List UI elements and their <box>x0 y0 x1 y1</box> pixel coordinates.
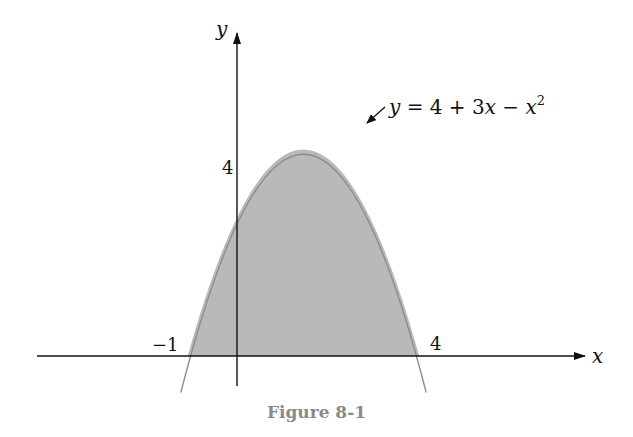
tick-label-y4: 4 <box>222 157 233 178</box>
shaded-area <box>188 150 420 357</box>
equation-label: y = 4 + 3x − x2 <box>388 93 545 119</box>
figure-caption: Figure 8-1 <box>0 402 633 422</box>
annotation-arrow <box>367 107 385 123</box>
y-axis-label: y <box>215 17 228 41</box>
tick-label-neg1: −1 <box>152 334 179 355</box>
x-axis-label: x <box>592 344 603 368</box>
parabola-figure: x y −1 4 4 y = 4 + 3x − x2 <box>0 0 633 437</box>
tick-label-x4: 4 <box>430 333 441 354</box>
